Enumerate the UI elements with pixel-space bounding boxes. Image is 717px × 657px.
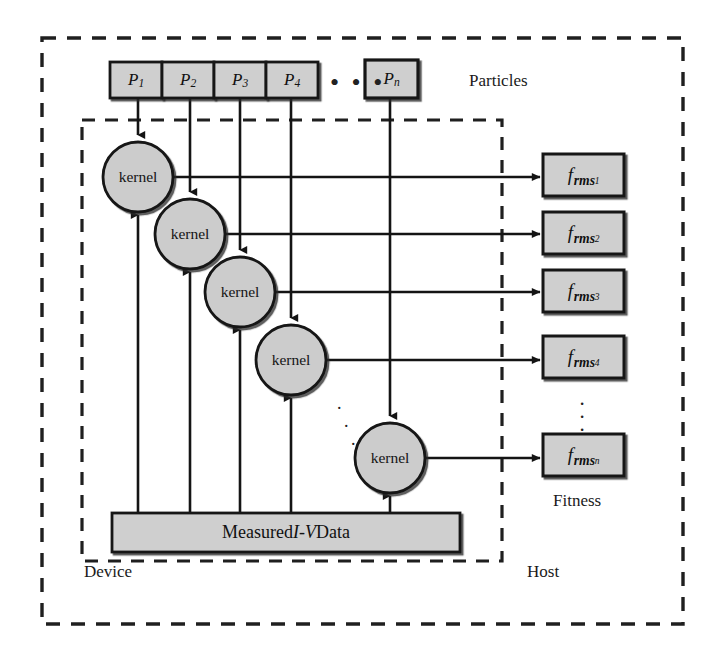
kernel-circle-1 bbox=[103, 142, 173, 212]
particle-box-4 bbox=[266, 62, 318, 98]
fitness-box-n bbox=[543, 434, 624, 476]
fitness-box-3 bbox=[543, 270, 624, 312]
fitness-box-4 bbox=[543, 336, 624, 378]
kernel-circle-2 bbox=[155, 199, 225, 269]
particle-box-1 bbox=[110, 62, 162, 98]
diagram-graphics bbox=[0, 0, 717, 657]
kernel-circle-4 bbox=[256, 325, 326, 395]
dot-1: . bbox=[337, 394, 356, 412]
fitness-box-2 bbox=[543, 212, 624, 254]
fitness-box-1 bbox=[543, 154, 624, 196]
particle-box-3 bbox=[214, 62, 266, 98]
fitness-group-label: Fitness bbox=[553, 492, 601, 509]
particles-group-label: Particles bbox=[469, 72, 528, 89]
particles-ellipsis: • • • bbox=[330, 70, 385, 96]
kernel-circle-5 bbox=[355, 423, 425, 493]
kernel-circle-3 bbox=[205, 257, 275, 327]
diagram-canvas: P1 P2 P3 P4 Pn • • • kernel kernel kerne… bbox=[0, 0, 717, 657]
device-region-label: Device bbox=[84, 563, 132, 580]
fitness-vertical-ellipsis: . . . bbox=[572, 392, 592, 431]
dot-3: . bbox=[351, 430, 356, 448]
measured-data-block bbox=[112, 513, 460, 552]
kernels-diagonal-ellipsis: . . . bbox=[337, 394, 356, 448]
particle-box-2 bbox=[162, 62, 214, 98]
dot-2: . bbox=[344, 412, 356, 430]
dot-3: . bbox=[572, 418, 592, 431]
host-region-label: Host bbox=[527, 563, 559, 580]
